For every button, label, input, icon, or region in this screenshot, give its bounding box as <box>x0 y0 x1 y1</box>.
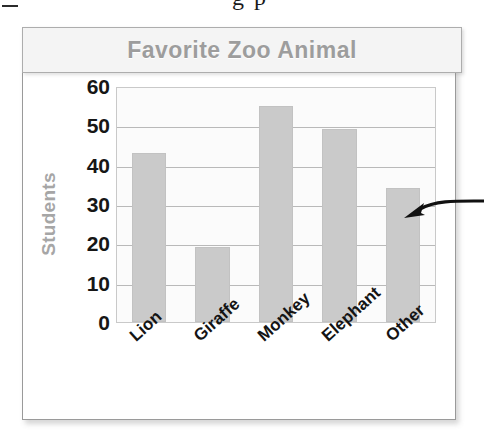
bar-slot-elephant <box>308 88 372 322</box>
chart-body: Students 6050403020100 LionGiraffeMonkey… <box>22 73 456 420</box>
x-axis-tick-labels: LionGiraffeMonkeyElephantOther <box>116 325 436 411</box>
bar-slot-other <box>371 88 435 322</box>
bar-monkey <box>259 106 293 322</box>
top-caption-crop: g p <box>0 0 484 18</box>
y-axis-tick-60: 60 <box>58 75 110 99</box>
bar-elephant <box>322 129 356 322</box>
y-axis-tick-30: 30 <box>58 193 110 217</box>
bars-layer <box>117 88 435 322</box>
y-axis-title: Students <box>38 159 60 269</box>
y-axis-tick-0: 0 <box>58 311 110 335</box>
chart-title: Favorite Zoo Animal <box>127 37 357 64</box>
bar-lion <box>132 153 166 322</box>
caption-dash <box>2 5 18 7</box>
y-axis-tick-40: 40 <box>58 154 110 178</box>
plot-area <box>116 87 436 323</box>
caption-text: g p <box>232 0 268 11</box>
bar-slot-lion <box>117 88 181 322</box>
bar-slot-monkey <box>244 88 308 322</box>
y-axis-tick-10: 10 <box>58 272 110 296</box>
bar-slot-giraffe <box>181 88 245 322</box>
chart-title-plate: Favorite Zoo Animal <box>22 27 462 73</box>
y-axis-tick-20: 20 <box>58 232 110 256</box>
y-axis-tick-labels: 6050403020100 <box>58 87 110 323</box>
y-axis-tick-50: 50 <box>58 114 110 138</box>
